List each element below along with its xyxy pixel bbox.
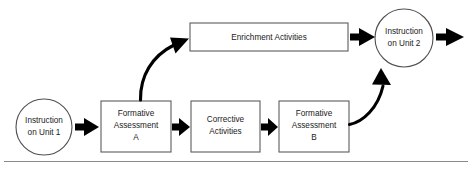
connector-enrichment-to-unit2 [350, 28, 375, 46]
formative-assessment-a-label-line3: A [133, 133, 139, 142]
node-formative-assessment-a: Formative Assessment A [101, 101, 171, 152]
instruction-unit-2-circle [375, 9, 433, 67]
connector-fa-a-to-corrective [172, 118, 190, 136]
node-instruction-unit-2: Instruction on Unit 2 [375, 9, 433, 67]
instruction-unit-1-circle [16, 99, 72, 155]
connector-fa-a-to-enrichment [140, 38, 189, 101]
formative-assessment-a-label-line1: Formative [118, 109, 155, 118]
connector-unit1-to-fa-a [75, 118, 99, 136]
connector-corrective-to-fa-b [261, 118, 278, 136]
node-instruction-unit-1: Instruction on Unit 1 [16, 99, 72, 155]
instruction-unit-1-label-line1: Instruction [25, 116, 63, 125]
formative-assessment-b-label-line1: Formative [296, 109, 333, 118]
node-corrective-activities: Corrective Activities [191, 101, 260, 152]
formative-assessment-a-label-line2: Assessment [114, 121, 159, 130]
node-enrichment-activities: Enrichment Activities [190, 23, 348, 51]
instruction-unit-2-label-line1: Instruction [385, 27, 423, 36]
flow-diagram: Instruction on Unit 1 Formative Assessme… [0, 0, 472, 171]
instruction-unit-1-label-line2: on Unit 1 [28, 128, 61, 137]
corrective-activities-label-line2: Activities [209, 127, 241, 136]
instruction-unit-2-label-line2: on Unit 2 [388, 39, 421, 48]
formative-assessment-b-label-line3: B [311, 133, 317, 142]
node-formative-assessment-b: Formative Assessment B [279, 101, 349, 152]
corrective-activities-label-line1: Corrective [207, 115, 245, 124]
formative-assessment-b-label-line2: Assessment [292, 121, 337, 130]
connector-unit2-exit [436, 28, 464, 46]
enrichment-activities-label: Enrichment Activities [231, 33, 307, 42]
connector-fa-b-to-unit2 [350, 68, 392, 125]
flow-diagram-canvas: Instruction on Unit 1 Formative Assessme… [0, 0, 472, 171]
